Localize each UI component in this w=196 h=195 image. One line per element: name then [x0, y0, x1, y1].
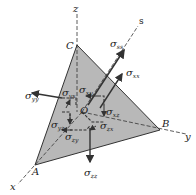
sigma-zz-label: σzz: [84, 167, 98, 179]
face-abc: [35, 45, 160, 165]
x-axis-label: x: [10, 181, 16, 192]
y-axis-label: y: [184, 131, 191, 142]
z-axis-label: z: [72, 3, 79, 14]
sigma-xx-label: σxx: [126, 67, 140, 79]
diagram-canvas: z s y x C B A O σss σxx σyy σxy σyx σyz …: [0, 0, 196, 195]
point-o-label: O: [80, 105, 88, 116]
point-a-label: A: [31, 166, 39, 177]
point-c-label: C: [66, 40, 74, 51]
s-axis-label: s: [139, 16, 144, 26]
tetrahedron-stress-diagram: z s y x C B A O σss σxx σyy σxy σyx σyz …: [0, 0, 196, 195]
sigma-ss-label: σss: [110, 38, 123, 50]
sigma-yy-label: σyy: [25, 90, 39, 103]
point-b-label: B: [161, 118, 169, 129]
